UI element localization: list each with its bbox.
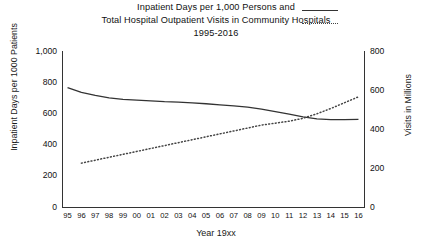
y-axis-left-tick-label: 800 <box>19 77 57 87</box>
y-axis-left-tick-label: 600 <box>19 108 57 118</box>
chart-title-line-1: Inpatient Days per 1,000 Persons and <box>0 2 432 12</box>
legend-solid-line-swatch <box>302 10 338 11</box>
y-axis-left-tick-label: 400 <box>19 139 57 149</box>
x-axis-label: Year 19xx <box>0 228 432 238</box>
x-axis-tick-label: 16 <box>349 211 367 220</box>
legend-dotted-line-swatch <box>302 23 338 24</box>
y-axis-right-line <box>364 51 365 208</box>
y-axis-left-tick-label: 0 <box>19 202 57 212</box>
y-axis-right-label: Visits in Millions <box>403 45 413 165</box>
y-axis-left-tick-label: 200 <box>19 170 57 180</box>
x-axis-line <box>62 207 365 208</box>
chart-title-line-3: 1995-2016 <box>0 28 432 38</box>
y-axis-left-tick-label: 1,000 <box>19 46 57 56</box>
plot-area <box>62 51 364 207</box>
series-canvas <box>62 51 364 207</box>
chart-page: Inpatient Days per 1,000 Persons and Tot… <box>0 0 432 249</box>
y-axis-left-label: Inpatient Days per 1000 Patients <box>9 11 19 163</box>
chart-title-line-2: Total Hospital Outpatient Visits in Comm… <box>0 15 432 25</box>
y-axis-right-tick-label: 0 <box>370 202 408 212</box>
outpatient-visits-series-line <box>81 97 358 163</box>
